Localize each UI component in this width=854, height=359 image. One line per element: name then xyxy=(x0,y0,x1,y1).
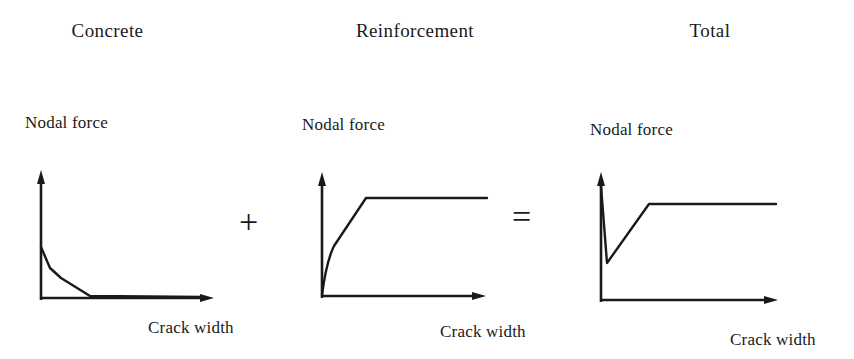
x-axis-label-reinforcement: Crack width xyxy=(440,322,526,342)
curve-concrete xyxy=(41,247,204,297)
operator-plus: + xyxy=(239,205,258,239)
x-axis-label-concrete: Crack width xyxy=(148,318,234,338)
operator-equals: = xyxy=(512,200,531,234)
curve-total xyxy=(601,186,776,263)
panel-concrete: Concrete Nodal force Crack width xyxy=(0,0,250,359)
panel-reinforcement: Reinforcement Nodal force Crack width xyxy=(280,0,530,359)
plot-reinforcement xyxy=(280,0,530,359)
plot-concrete xyxy=(0,0,250,359)
plot-total xyxy=(560,0,854,359)
x-axis-total xyxy=(601,296,778,304)
panel-total: Total Nodal force Crack width xyxy=(560,0,854,359)
x-axis-label-total: Crack width xyxy=(730,330,816,350)
x-axis-reinforcement xyxy=(322,292,486,300)
y-axis-concrete xyxy=(37,170,45,300)
curve-reinforcement xyxy=(322,198,487,295)
figure-root: Concrete Nodal force Crack width + Reinf… xyxy=(0,0,854,359)
